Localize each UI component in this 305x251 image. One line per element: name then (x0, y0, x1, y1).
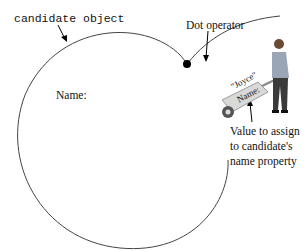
value-caption-line: Value to assign (230, 124, 305, 139)
diagram-canvas: "Joyce" Name: candidate object Dot opera… (0, 0, 305, 251)
value-caption-line: name property (230, 154, 305, 169)
object-circle (18, 32, 228, 248)
value-caption: Value to assign to candidate's name prop… (230, 124, 305, 169)
value-caption-line: to candidate's (230, 139, 305, 154)
dot-operator-label: Dot operator (186, 19, 244, 31)
dot-arrowhead-icon (203, 55, 209, 62)
person-icon (272, 39, 289, 113)
object-label: candidate object (14, 12, 124, 25)
object-arrowhead-icon (61, 35, 67, 42)
dot-operator-dot (183, 60, 191, 68)
name-property-label: Name: (56, 89, 87, 101)
